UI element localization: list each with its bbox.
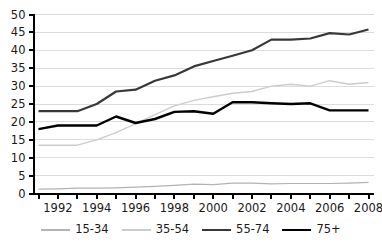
age-group-trend-chart: 0510152025303540455019921994199619982000…	[0, 0, 382, 244]
legend: 15-3435-5455-7475+	[0, 220, 382, 240]
x-tick-label-2004: 2004	[276, 201, 305, 215]
x-tick-label-1996: 1996	[121, 201, 150, 215]
x-tick-label-2006: 2006	[315, 201, 344, 215]
y-gridlines	[34, 15, 375, 176]
legend-label: 15-34	[75, 224, 108, 236]
y-tick-label-45: 45	[11, 25, 26, 39]
y-tick-label-10: 10	[11, 151, 26, 165]
legend-item-75+: 75+	[282, 224, 340, 236]
legend-label: 75+	[316, 224, 340, 236]
legend-item-35-54: 35-54	[122, 224, 189, 236]
legend-item-55-74: 55-74	[202, 224, 269, 236]
legend-swatch-55-74	[202, 229, 231, 231]
legend-swatch-75+	[282, 229, 311, 231]
legend-swatch-15-34	[41, 229, 70, 230]
y-tick-label-35: 35	[11, 61, 26, 75]
y-tick-labels: 05101520253035404550	[11, 8, 34, 201]
y-tick-label-20: 20	[11, 115, 26, 129]
y-tick-label-0: 0	[18, 187, 25, 201]
x-tick-labels: 199219941996199820002002200420062008	[39, 194, 382, 215]
y-tick-label-30: 30	[11, 79, 26, 93]
y-tick-label-5: 5	[18, 169, 25, 183]
legend-label: 55-74	[236, 224, 269, 236]
x-tick-label-1994: 1994	[82, 201, 111, 215]
x-tick-label-2002: 2002	[237, 201, 266, 215]
y-tick-label-40: 40	[11, 43, 26, 57]
legend-item-15-34: 15-34	[41, 224, 108, 236]
y-tick-label-50: 50	[11, 8, 26, 22]
legend-label: 35-54	[156, 224, 189, 236]
plot-area: 0510152025303540455019921994199619982000…	[0, 0, 382, 222]
y-tick-label-25: 25	[11, 97, 26, 111]
series-line-15-34	[39, 182, 369, 189]
x-tick-label-2000: 2000	[199, 201, 228, 215]
x-tick-label-2008: 2008	[354, 201, 382, 215]
x-tick-label-1992: 1992	[43, 201, 72, 215]
y-tick-label-15: 15	[11, 133, 26, 147]
x-tick-label-1998: 1998	[160, 201, 189, 215]
legend-swatch-35-54	[122, 229, 151, 230]
